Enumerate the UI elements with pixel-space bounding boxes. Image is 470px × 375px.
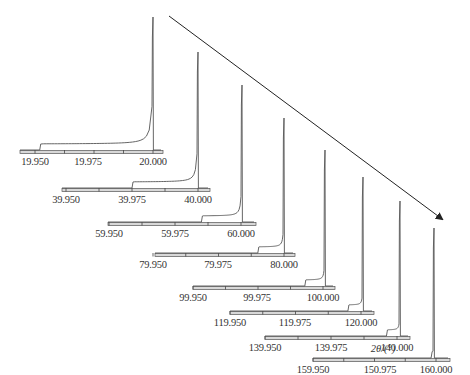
tick-label: 119.950	[214, 317, 246, 328]
peak-panel-2	[62, 52, 210, 192]
tick-label: 20.000	[139, 156, 167, 167]
x-axis-bar	[313, 359, 450, 362]
tick-label: 99.950	[179, 292, 207, 303]
tick-label: 79.975	[204, 259, 232, 270]
tick-label: 139.950	[249, 342, 282, 353]
x-axis-title: 2θ/(°)	[371, 343, 396, 354]
tick-label: 80.000	[270, 259, 298, 270]
tick-label: 40.000	[184, 194, 212, 205]
tick-label: 59.950	[95, 228, 123, 239]
tick-label: 19.975	[74, 156, 102, 167]
tick-label: 150.975	[364, 364, 397, 375]
tick-label: 59.975	[161, 228, 189, 239]
tick-label: 99.975	[243, 292, 271, 303]
panels-group	[20, 17, 450, 362]
x-axis-bar	[230, 312, 374, 315]
tick-label: 39.950	[52, 194, 80, 205]
x-axis-bar	[62, 189, 210, 192]
peak-panel-1	[20, 17, 163, 154]
tick-label: 39.975	[118, 194, 146, 205]
x-axis-bar	[155, 254, 295, 257]
x-axis-bar	[193, 287, 335, 290]
peak-profile-curve	[62, 52, 208, 188]
peak-profile-curve	[230, 177, 372, 311]
tick-label: 139.975	[315, 342, 348, 353]
tick-label: 100.000	[307, 292, 340, 303]
x-axis-bar	[265, 337, 410, 340]
tick-label: 159.950	[297, 364, 330, 375]
tick-label: 160.000	[420, 364, 453, 375]
tick-label: 19.950	[21, 156, 49, 167]
tick-label: 79.950	[139, 259, 167, 270]
peak-profile-curve	[20, 17, 161, 150]
tick-label: 60.000	[227, 228, 255, 239]
tick-label: 120.000	[345, 317, 378, 328]
x-axis-bar	[20, 151, 163, 154]
x-axis-bar	[108, 223, 256, 226]
tick-label: 119.975	[279, 317, 311, 328]
